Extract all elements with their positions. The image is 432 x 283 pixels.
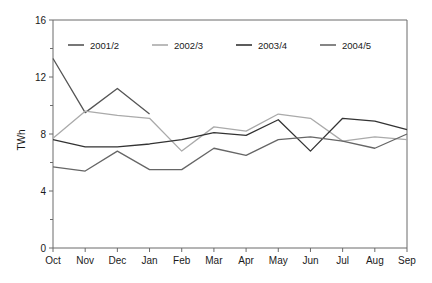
x-tick-label: Mar <box>205 255 223 266</box>
legend-label-2004-5: 2004/5 <box>342 40 371 51</box>
legend: 2001/22002/32003/42004/5 <box>68 40 371 51</box>
x-tick-label: Apr <box>238 255 254 266</box>
y-axis-title: TWh <box>16 129 27 150</box>
y-tick-label: 16 <box>35 15 47 26</box>
x-tick-label: Jun <box>302 255 318 266</box>
legend-label-2003-4: 2003/4 <box>258 40 287 51</box>
x-tick-label: Sep <box>398 255 416 266</box>
x-tick-group: OctNovDecJanFebMarAprMayJunJulAugSep <box>45 248 416 266</box>
x-tick-label: Feb <box>173 255 191 266</box>
x-tick-label: Oct <box>45 255 61 266</box>
series-line-2001-2 <box>53 58 150 114</box>
legend-label-2002-3: 2002/3 <box>174 40 203 51</box>
x-tick-label: Jul <box>336 255 349 266</box>
x-tick-label: Nov <box>76 255 94 266</box>
series-group <box>53 58 407 171</box>
x-tick-label: Jan <box>141 255 157 266</box>
y-tick-label: 12 <box>35 72 47 83</box>
x-tick-label: Aug <box>366 255 384 266</box>
chart-canvas: 0481216 OctNovDecJanFebMarAprMayJunJulAu… <box>0 0 432 283</box>
x-tick-label: May <box>269 255 288 266</box>
series-line-2003-4 <box>53 118 407 151</box>
y-tick-label: 8 <box>40 129 46 140</box>
y-tick-group: 0481216 <box>35 15 53 254</box>
line-chart: 0481216 OctNovDecJanFebMarAprMayJunJulAu… <box>0 0 432 283</box>
series-line-2002-3 <box>53 111 407 151</box>
x-tick-label: Dec <box>108 255 126 266</box>
legend-label-2001-2: 2001/2 <box>90 40 119 51</box>
y-tick-label: 0 <box>40 243 46 254</box>
y-tick-label: 4 <box>40 186 46 197</box>
